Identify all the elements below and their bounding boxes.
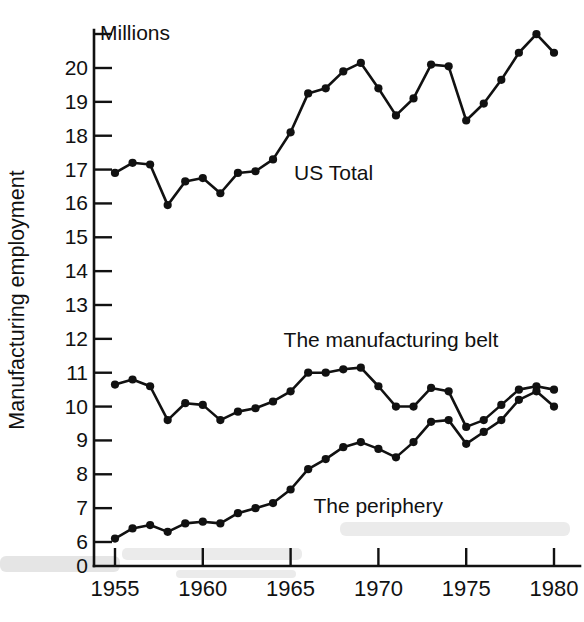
y-tick-label: 14 (65, 259, 89, 282)
data-point (287, 128, 295, 136)
y-tick-label: 6 (76, 530, 88, 553)
data-point (269, 397, 277, 405)
data-point (146, 382, 154, 390)
data-point (357, 59, 365, 67)
data-point (497, 401, 505, 409)
series-the-manufacturing-belt (111, 364, 558, 431)
series-group (111, 30, 558, 543)
data-point (322, 455, 330, 463)
unit-label: Millions (100, 21, 170, 44)
x-tick-label: 1960 (178, 576, 227, 601)
data-point (497, 416, 505, 424)
chart-figure: 67891011121314151617181920 1955196019651… (0, 0, 584, 622)
data-point (304, 369, 312, 377)
data-point (322, 84, 330, 92)
data-point (146, 160, 154, 168)
data-point (357, 364, 365, 372)
data-point (445, 387, 453, 395)
data-point (164, 528, 172, 536)
data-point (480, 99, 488, 107)
x-tick-label: 1975 (442, 576, 491, 601)
data-point (251, 504, 259, 512)
data-point (199, 174, 207, 182)
data-point (374, 382, 382, 390)
data-point (532, 387, 540, 395)
data-point (146, 521, 154, 529)
data-point (515, 49, 523, 57)
data-point (216, 416, 224, 424)
data-point (234, 408, 242, 416)
y-axis-title: Manufacturing employment (5, 170, 29, 429)
series-label-the-periphery: The periphery (313, 494, 443, 517)
data-point (357, 438, 365, 446)
data-point (427, 418, 435, 426)
y-tick-label: 17 (65, 158, 88, 181)
data-point (392, 453, 400, 461)
data-point (128, 159, 136, 167)
data-point (427, 61, 435, 69)
data-point (322, 369, 330, 377)
data-point (269, 155, 277, 163)
data-point (111, 169, 119, 177)
axes (94, 30, 580, 566)
data-point (304, 465, 312, 473)
data-point (427, 384, 435, 392)
data-point (515, 396, 523, 404)
data-point (234, 169, 242, 177)
y-tick-label: 20 (65, 56, 88, 79)
y-tick-label: 8 (76, 462, 88, 485)
data-point (164, 201, 172, 209)
data-point (128, 375, 136, 383)
data-point (251, 404, 259, 412)
manufacturing-employment-line-chart: 67891011121314151617181920 1955196019651… (0, 0, 584, 622)
data-point (532, 30, 540, 38)
data-point (111, 535, 119, 543)
y-tick-label: 16 (65, 191, 88, 214)
data-point (515, 386, 523, 394)
data-point (181, 177, 189, 185)
data-point (234, 509, 242, 517)
series-line (115, 368, 554, 427)
x-tick-label: 1955 (91, 576, 140, 601)
y-tick-label: 12 (65, 327, 88, 350)
y-tick-label: 9 (76, 428, 88, 451)
y-tick-label: 18 (65, 124, 88, 147)
data-point (497, 76, 505, 84)
data-point (199, 401, 207, 409)
data-point (287, 387, 295, 395)
y-axis-ticks (94, 68, 112, 542)
data-point (550, 386, 558, 394)
x-tick-label: 1980 (530, 576, 579, 601)
series-label-the-manufacturing-belt: The manufacturing belt (284, 328, 499, 351)
data-point (339, 443, 347, 451)
data-point (480, 416, 488, 424)
series-label-us-total: US Total (294, 161, 373, 184)
y-tick-label: 19 (65, 90, 88, 113)
data-point (269, 499, 277, 507)
y-tick-label: 15 (65, 225, 88, 248)
y-tick-label: 11 (66, 361, 88, 384)
data-point (445, 62, 453, 70)
data-point (409, 94, 417, 102)
data-point (480, 428, 488, 436)
data-point (128, 524, 136, 532)
data-point (462, 423, 470, 431)
data-point (550, 49, 558, 57)
data-point (287, 485, 295, 493)
data-point (216, 519, 224, 527)
data-point (251, 167, 259, 175)
data-point (339, 67, 347, 75)
zero-label: 0 (76, 554, 88, 577)
data-point (409, 402, 417, 410)
data-point (304, 89, 312, 97)
y-tick-label: 7 (76, 496, 88, 519)
data-point (409, 438, 417, 446)
data-point (164, 416, 172, 424)
data-point (181, 519, 189, 527)
x-tick-label: 1970 (354, 576, 403, 601)
data-point (374, 84, 382, 92)
y-tick-label: 10 (65, 395, 88, 418)
data-point (445, 416, 453, 424)
data-point (550, 402, 558, 410)
data-point (216, 189, 224, 197)
